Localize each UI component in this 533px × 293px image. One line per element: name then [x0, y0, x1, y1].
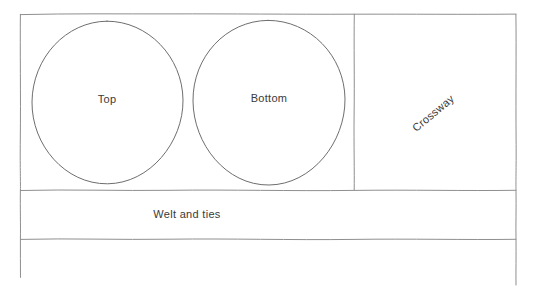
outer-top-edge	[21, 14, 517, 15]
pattern-layout-diagram: Top Bottom Crossway Welt and ties	[0, 0, 533, 293]
label-top-piece: Top	[0, 93, 214, 105]
label-welt-and-ties: Welt and ties	[20, 208, 354, 220]
label-bottom-piece: Bottom	[198, 92, 340, 104]
welt-strip-top-edge	[20, 190, 516, 191]
welt-strip-bottom-edge	[20, 239, 516, 240]
sketch-line-layer	[0, 0, 533, 293]
